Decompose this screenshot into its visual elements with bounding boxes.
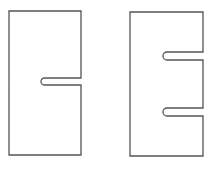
plate-one-slot [9, 11, 81, 155]
plate-two-slots [130, 12, 203, 156]
diagram-canvas [0, 0, 211, 169]
diagram-svg [0, 0, 211, 169]
